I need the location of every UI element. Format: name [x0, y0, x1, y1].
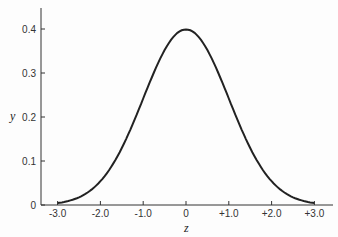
normal-curve-chart: 00.10.20.30.4 -3.0-2.0-1.00+1.0+2.0+3.0 …: [0, 0, 338, 237]
x-tick-label: +2.0: [262, 208, 282, 219]
x-axis-label: z: [183, 221, 189, 235]
density-curve: [58, 30, 315, 204]
x-tick-label: -3.0: [49, 208, 67, 219]
x-tick-label: +1.0: [219, 208, 239, 219]
x-ticks: -3.0-2.0-1.00+1.0+2.0+3.0: [49, 201, 325, 219]
y-tick-label: 0.1: [22, 156, 36, 167]
x-tick-label: +3.0: [305, 208, 325, 219]
y-tick-label: 0: [30, 200, 36, 211]
y-axis-label: y: [9, 109, 16, 123]
y-tick-label: 0.2: [22, 112, 36, 123]
y-tick-label: 0.4: [22, 24, 36, 35]
y-ticks: 00.10.20.30.4: [22, 24, 45, 211]
y-tick-label: 0.3: [22, 68, 36, 79]
x-tick-label: -2.0: [92, 208, 110, 219]
x-tick-label: 0: [183, 208, 189, 219]
x-tick-label: -1.0: [135, 208, 153, 219]
